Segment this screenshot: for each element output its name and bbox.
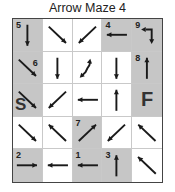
cell-r1-c3[interactable] bbox=[73, 19, 103, 52]
arrow-down-right-icon bbox=[13, 117, 42, 149]
cell-r3-c2[interactable] bbox=[43, 84, 73, 117]
cell-r5-c1[interactable]: 2 bbox=[13, 149, 43, 182]
cell-r3-c3[interactable] bbox=[73, 84, 103, 117]
cell-r3-c4[interactable] bbox=[102, 84, 132, 117]
cell-r5-c2[interactable] bbox=[43, 149, 73, 182]
start-marker: S bbox=[13, 84, 42, 116]
puzzle-title: Arrow Maze 4 bbox=[0, 1, 175, 15]
arrow-maze-grid: 54968SF7213 bbox=[12, 18, 163, 183]
cell-r3-c5[interactable]: F bbox=[132, 84, 162, 117]
arrow-down-icon bbox=[102, 52, 131, 84]
cell-r3-c1[interactable]: S bbox=[13, 84, 43, 117]
cell-r4-c3[interactable]: 7 bbox=[73, 117, 103, 150]
cell-number: 8 bbox=[135, 53, 140, 63]
arrow-curved-double-icon bbox=[73, 52, 102, 84]
arrow-up-left-icon bbox=[132, 117, 162, 149]
cell-number: 4 bbox=[105, 20, 110, 30]
cell-r1-c4[interactable]: 4 bbox=[102, 19, 132, 52]
cell-number: 6 bbox=[33, 58, 38, 68]
cell-r5-c4[interactable]: 3 bbox=[102, 149, 132, 182]
cell-number: 2 bbox=[16, 150, 21, 160]
arrow-left-icon bbox=[73, 84, 102, 116]
cell-r4-c1[interactable] bbox=[13, 117, 43, 150]
arrow-down-left-icon bbox=[102, 117, 131, 149]
arrow-up-icon bbox=[102, 84, 131, 116]
cell-number: 7 bbox=[76, 118, 81, 128]
cell-r2-c1[interactable]: 6 bbox=[13, 52, 43, 85]
cell-r4-c5[interactable] bbox=[132, 117, 162, 150]
finish-marker: F bbox=[132, 84, 162, 116]
cell-number: 1 bbox=[76, 150, 81, 160]
arrow-down-right-icon bbox=[43, 19, 72, 51]
cell-r2-c3[interactable] bbox=[73, 52, 103, 85]
cell-r4-c2[interactable] bbox=[43, 117, 73, 150]
cell-r2-c5[interactable]: 8 bbox=[132, 52, 162, 85]
arrow-left-icon bbox=[43, 149, 72, 182]
cell-r2-c4[interactable] bbox=[102, 52, 132, 85]
arrow-up-left-icon bbox=[132, 149, 162, 182]
cell-r5-c3[interactable]: 1 bbox=[73, 149, 103, 182]
cell-number: 3 bbox=[105, 150, 110, 160]
arrow-up-left-icon bbox=[43, 117, 72, 149]
cell-r1-c5[interactable]: 9 bbox=[132, 19, 162, 52]
arrow-down-left-icon bbox=[73, 19, 102, 51]
cell-number: 9 bbox=[135, 20, 140, 30]
cell-r1-c1[interactable]: 5 bbox=[13, 19, 43, 52]
arrow-down-left-icon bbox=[43, 84, 72, 116]
cell-r1-c2[interactable] bbox=[43, 19, 73, 52]
cell-r5-c5[interactable] bbox=[132, 149, 162, 182]
cell-r4-c4[interactable] bbox=[102, 117, 132, 150]
cell-number: 5 bbox=[16, 20, 21, 30]
arrow-down-icon bbox=[43, 52, 72, 84]
cell-r2-c2[interactable] bbox=[43, 52, 73, 85]
